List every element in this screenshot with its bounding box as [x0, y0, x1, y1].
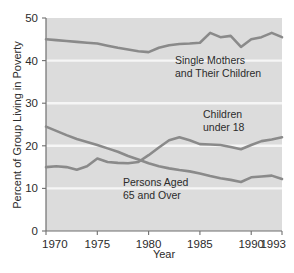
x-tick-label-1970: 1970	[42, 238, 68, 250]
x-axis-title: Year	[153, 248, 176, 260]
annotation-single-mothers-line2: and Their Children	[175, 67, 261, 79]
x-tick-label-1975: 1975	[85, 238, 111, 250]
y-tick-label-50: 50	[25, 12, 38, 24]
annotation-single-mothers-line1: Single Mothers	[175, 54, 245, 66]
annotation-elderly-line2: 65 and Over	[123, 189, 181, 201]
y-tick-label-40: 40	[25, 55, 38, 67]
annotation-elderly-line1: Persons Aged	[123, 176, 189, 188]
poverty-rate-line-chart: 01020304050 197019751980198519901993 Per…	[0, 0, 294, 273]
y-tick-label-10: 10	[25, 182, 38, 194]
y-tick-label-0: 0	[32, 225, 38, 237]
annotation-children-line1: Children	[203, 108, 242, 120]
y-axis-title: Percent of Group Living in Poverty	[11, 41, 23, 209]
x-tick-label-1985: 1985	[187, 238, 213, 250]
chart-canvas: 01020304050 197019751980198519901993 Per…	[0, 0, 294, 273]
annotation-children-line2: under 18	[203, 121, 245, 133]
x-tick-label-1993: 1993	[260, 238, 286, 250]
y-tick-label-30: 30	[25, 97, 38, 109]
y-tick-label-20: 20	[25, 140, 38, 152]
